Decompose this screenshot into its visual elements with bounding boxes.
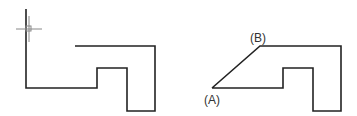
diagram-canvas: (B) (A) (0, 0, 357, 116)
left-outline (26, 9, 155, 111)
right-outline (212, 46, 341, 111)
left-figure (16, 9, 155, 111)
crosshair-cursor-icon (16, 16, 42, 42)
label-b: (B) (250, 31, 266, 45)
label-a: (A) (204, 93, 220, 107)
right-figure: (B) (A) (204, 31, 341, 111)
